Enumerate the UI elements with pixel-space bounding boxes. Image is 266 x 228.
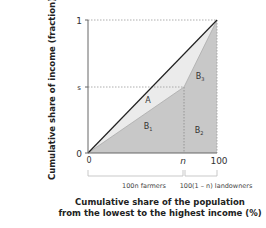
lorenz-curve-diagram: 1 s 0 0 n 100 Cumulative share of income… [0, 0, 266, 228]
x-axis-title-line2: from the lowest to the highest income (%… [58, 208, 261, 218]
bracket-label-landowners: 100(1 – n) landowners [180, 182, 253, 190]
x-tick-label-n: n [180, 156, 186, 166]
y-tick-label-s: s [77, 84, 81, 92]
x-axis-title-line1: Cumulative share of the population [75, 197, 245, 207]
bracket-label-farmers: 100n farmers [122, 182, 166, 190]
region-label-a: A [145, 96, 151, 105]
bracket-farmers [88, 170, 183, 176]
x-tick-label-0: 0 [86, 156, 91, 165]
y-axis-title: Cumulative share of income (fraction) [47, 0, 57, 180]
bracket-landowners [185, 170, 217, 176]
y-tick-label-1: 1 [76, 16, 82, 26]
x-tick-label-100: 100 [210, 156, 227, 166]
y-tick-label-0: 0 [76, 149, 82, 159]
